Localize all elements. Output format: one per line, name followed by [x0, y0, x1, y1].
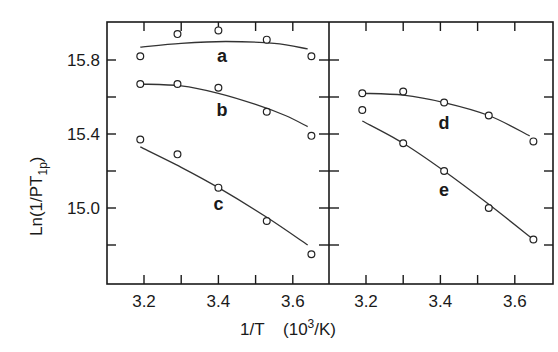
x-axis-units-tail: /K)	[314, 320, 336, 339]
x-axis-units-base: 10	[289, 320, 308, 339]
data-point-d	[530, 138, 537, 145]
data-point-c	[215, 184, 222, 191]
curve-label-a: a	[217, 46, 228, 66]
x-axis-title: 1/T (103/K)	[240, 317, 336, 339]
curve-label-e: e	[439, 180, 449, 200]
y-tick-label: 15.4	[67, 125, 100, 144]
axis-ticks: 15.815.415.03.23.43.63.23.43.6	[67, 22, 553, 311]
data-point-b	[308, 132, 315, 139]
data-point-c	[137, 136, 144, 143]
x-axis-label: 1/T	[240, 320, 264, 339]
chart-canvas: 15.815.415.03.23.43.63.23.43.6 abcde 1/T…	[0, 0, 558, 352]
data-point-e	[441, 168, 448, 175]
y-tick-label: 15.8	[67, 51, 100, 70]
data-point-a	[137, 53, 144, 60]
x-tick-label: 3.2	[354, 292, 378, 311]
fit-curve-c	[140, 147, 307, 245]
data-point-e	[485, 205, 492, 212]
data-point-c	[308, 251, 315, 258]
data-point-d	[441, 99, 448, 106]
data-point-a	[263, 36, 270, 43]
x-tick-label: 3.6	[281, 292, 305, 311]
data-point-c	[174, 151, 181, 158]
data-point-e	[359, 107, 366, 114]
data-point-d	[485, 112, 492, 119]
x-tick-label: 3.6	[503, 292, 527, 311]
data-point-b	[137, 81, 144, 88]
x-tick-label: 3.4	[429, 292, 453, 311]
y-axis-title: Ln(1/PT1p)	[27, 156, 50, 236]
y-axis-label-sub: 1p	[36, 162, 50, 176]
y-axis-label-main: Ln(1/PT	[27, 176, 46, 236]
data-point-b	[174, 81, 181, 88]
x-tick-label: 3.4	[207, 292, 231, 311]
data-point-a	[308, 53, 315, 60]
data-point-e	[400, 140, 407, 147]
data-point-e	[530, 236, 537, 243]
data-point-d	[400, 88, 407, 95]
data-point-a	[174, 31, 181, 38]
data-point-d	[359, 90, 366, 97]
curve-label-d: d	[439, 113, 450, 133]
curve-label-c: c	[213, 194, 223, 214]
data-point-b	[263, 108, 270, 115]
y-tick-label: 15.0	[67, 199, 100, 218]
curve-labels: abcde	[213, 46, 449, 214]
y-axis-label-close: )	[27, 156, 46, 162]
data-series	[137, 27, 537, 258]
data-point-b	[215, 84, 222, 91]
x-tick-label: 3.2	[132, 292, 156, 311]
curve-label-b: b	[217, 100, 228, 120]
data-point-c	[263, 218, 270, 225]
data-point-a	[215, 27, 222, 34]
